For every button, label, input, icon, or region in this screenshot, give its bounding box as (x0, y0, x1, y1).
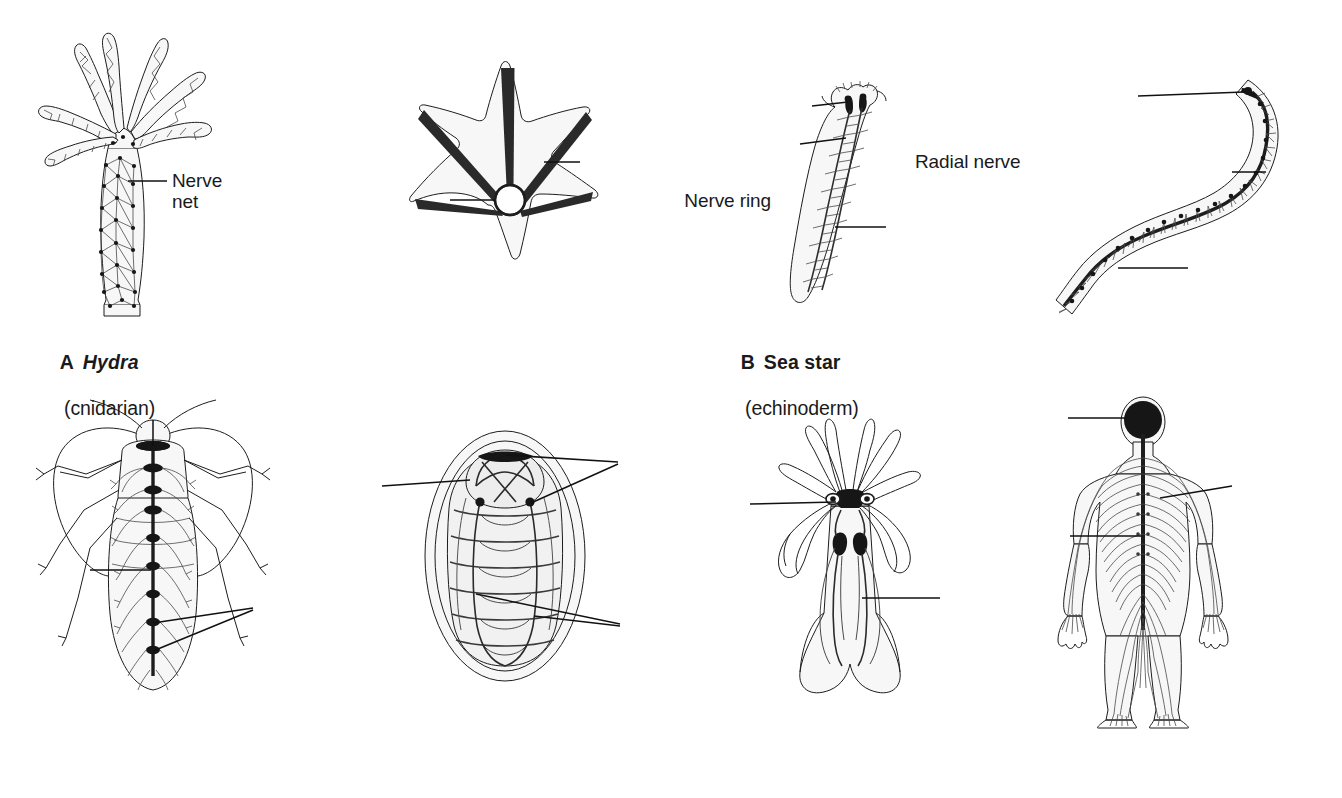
panel-hydra: Nerve net AHydra (cnidarian) (0, 0, 330, 390)
panel-chiton: Anterior nerve ring Ganglia Longitudinal… (330, 398, 690, 798)
planarian-illustration (690, 0, 1020, 340)
insect-illustration (0, 398, 330, 728)
earthworm-illustration (1020, 0, 1342, 340)
leader-brain-earthworm (1138, 92, 1244, 96)
panel-sea-star: Radial nerve Nerve ring BSea star (echin… (330, 0, 690, 390)
label-nerve-net: Nerve net (172, 170, 222, 213)
chiton-illustration (330, 398, 690, 728)
sea-star-illustration (330, 0, 690, 340)
human-illustration (1020, 398, 1342, 728)
panel-human: Brain Sensory ganglion Spinal cord HHuma… (1020, 398, 1342, 798)
panel-name-a: Hydra (83, 351, 139, 373)
panel-earthworm: Brain Ventral nerve cord Segmental gangl… (1020, 0, 1342, 390)
squid-illustration (690, 398, 1020, 728)
hydra-illustration (0, 0, 330, 330)
panel-squid: Brain Giant axon GSquid (Mollusk) (690, 398, 1020, 798)
panel-insect: Brain Nerve cord Ganglia EInsect (arthro… (0, 398, 330, 798)
panel-letter-a: A (60, 351, 74, 373)
panel-planarian: Brain Nerve cord Transverse nerve CPlana… (690, 0, 1020, 390)
leader-brain-squid (750, 502, 836, 504)
